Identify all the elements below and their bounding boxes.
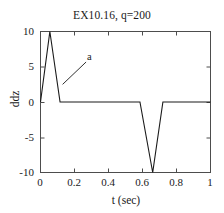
annotation-label-a: a xyxy=(87,51,92,62)
y-tick-label-10: 10 xyxy=(8,25,34,37)
x-tick-label-0p4: 0.4 xyxy=(91,176,125,188)
x-tick-label-0p8: 0.8 xyxy=(159,176,193,188)
y-axis-label: ddz xyxy=(9,71,21,127)
x-tick-label-1: 1 xyxy=(193,176,224,188)
x-tick-label-0p6: 0.6 xyxy=(125,176,159,188)
y-tick-label-neg5: -5 xyxy=(8,131,34,143)
x-axis-label: t (sec) xyxy=(40,194,212,206)
x-tick-label-0p2: 0.2 xyxy=(57,176,91,188)
x-tick-label-0: 0 xyxy=(23,176,57,188)
figure-container: EX10.16, q=200 xyxy=(0,0,224,213)
